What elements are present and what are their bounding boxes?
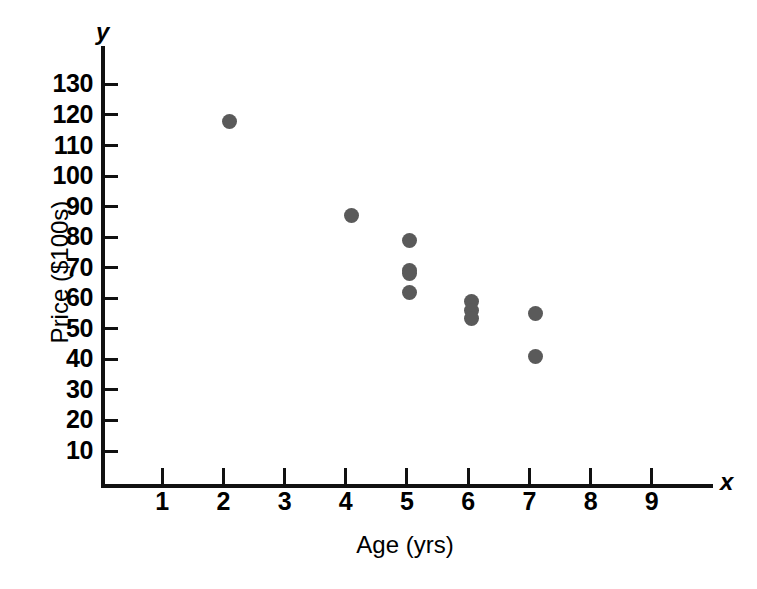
y-axis-tick-label-wrap: 40 — [0, 346, 93, 372]
y-axis-tick — [105, 266, 118, 269]
y-axis-tick — [105, 450, 118, 453]
y-axis-tick — [105, 236, 118, 239]
y-axis-tick-label: 10 — [0, 438, 93, 463]
y-axis-tick-label: 20 — [0, 407, 93, 432]
x-axis-tick — [528, 468, 531, 485]
y-axis-tick — [105, 419, 118, 422]
y-axis-tick-label-wrap: 110 — [0, 133, 93, 159]
y-axis-tick — [105, 175, 118, 178]
data-point — [222, 114, 237, 129]
y-axis-tick-label: 100 — [0, 163, 93, 188]
y-axis-tick-label: 90 — [0, 194, 93, 219]
y-axis-tick-label: 110 — [0, 133, 93, 158]
y-axis-tick-label-wrap: 20 — [0, 407, 93, 433]
data-point — [402, 233, 417, 248]
y-axis-tick-label: 70 — [0, 255, 93, 280]
y-axis-tick-label-wrap: 120 — [0, 102, 93, 128]
y-axis-tick — [105, 297, 118, 300]
scatter-plot-figure: y x Age (yrs) Price ($100s) 102030405060… — [0, 0, 757, 589]
x-axis-tick — [222, 468, 225, 485]
y-axis-tick-label-wrap: 50 — [0, 316, 93, 342]
x-axis-tick-label: 2 — [203, 489, 243, 514]
y-axis-tick-label-wrap: 60 — [0, 285, 93, 311]
x-axis-tick — [344, 468, 347, 485]
x-axis-variable-symbol: x — [720, 470, 733, 494]
y-axis-tick-label-wrap: 90 — [0, 194, 93, 220]
y-axis-tick — [105, 113, 118, 116]
y-axis-tick-label: 80 — [0, 224, 93, 249]
y-axis-tick — [105, 388, 118, 391]
y-axis-tick-label-wrap: 10 — [0, 438, 93, 464]
x-axis-tick — [467, 468, 470, 485]
y-axis-tick-label: 50 — [0, 316, 93, 341]
x-axis-tick-label: 8 — [570, 489, 610, 514]
x-axis-tick-label: 3 — [264, 489, 304, 514]
y-axis-tick-label: 120 — [0, 102, 93, 127]
y-axis-tick-label: 130 — [0, 71, 93, 96]
x-axis-tick-label: 4 — [326, 489, 366, 514]
y-axis-tick — [105, 83, 118, 86]
y-axis-tick-label-wrap: 100 — [0, 163, 93, 189]
x-axis-tick — [589, 468, 592, 485]
y-axis-tick-label-wrap: 80 — [0, 224, 93, 250]
x-axis-tick — [161, 468, 164, 485]
data-point — [464, 311, 479, 326]
x-axis-tick-label: 1 — [142, 489, 182, 514]
plot-area: y x Age (yrs) Price ($100s) 102030405060… — [0, 0, 757, 589]
y-axis-tick — [105, 327, 118, 330]
data-point — [402, 285, 417, 300]
y-axis-tick-label-wrap: 130 — [0, 71, 93, 97]
x-axis-tick — [405, 468, 408, 485]
data-point — [402, 266, 417, 281]
y-axis-tick — [105, 358, 118, 361]
x-axis-tick-label: 7 — [509, 489, 549, 514]
y-axis-tick-label-wrap: 30 — [0, 377, 93, 403]
x-axis-tick-label: 9 — [632, 489, 672, 514]
y-axis-tick-label: 40 — [0, 346, 93, 371]
x-axis-tick — [283, 468, 286, 485]
x-axis-tick — [650, 468, 653, 485]
y-axis-tick-label: 30 — [0, 377, 93, 402]
data-point — [528, 306, 543, 321]
x-axis-tick-label: 5 — [387, 489, 427, 514]
y-axis-tick — [105, 205, 118, 208]
x-axis-title: Age (yrs) — [240, 533, 570, 557]
x-axis-tick-label: 6 — [448, 489, 488, 514]
y-axis-tick-label-wrap: 70 — [0, 255, 93, 281]
data-point — [344, 208, 359, 223]
y-axis-variable-symbol: y — [96, 20, 109, 44]
y-axis-tick-label: 60 — [0, 285, 93, 310]
y-axis-tick — [105, 144, 118, 147]
data-point — [528, 349, 543, 364]
